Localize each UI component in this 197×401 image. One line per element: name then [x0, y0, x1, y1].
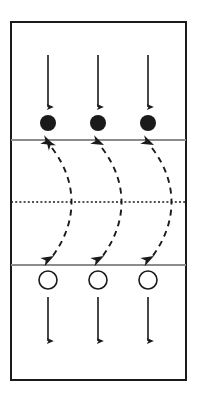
open-player-left: [39, 271, 57, 289]
court-drill-diagram: [0, 0, 197, 401]
filled-player-right: [140, 115, 156, 131]
open-player-right: [139, 271, 157, 289]
filled-player-center: [90, 115, 106, 131]
open-player-center: [89, 271, 107, 289]
diagram-root: [0, 0, 197, 401]
filled-player-left: [40, 115, 56, 131]
